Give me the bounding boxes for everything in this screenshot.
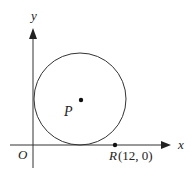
origin-label: O xyxy=(18,147,28,162)
point-r-name: R xyxy=(108,148,117,163)
point-r-coords: (12, 0) xyxy=(118,148,153,163)
coordinate-diagram: x y O P R(12, 0) xyxy=(0,0,192,176)
point-r-label: R(12, 0) xyxy=(108,148,153,163)
y-axis-label: y xyxy=(29,8,37,23)
point-r-dot xyxy=(113,143,117,147)
y-axis-arrow-icon xyxy=(29,28,37,39)
x-axis-label: x xyxy=(177,137,184,152)
x-axis-arrow-icon xyxy=(161,141,171,149)
point-p-dot xyxy=(79,98,83,102)
y-axis xyxy=(29,28,37,168)
point-p-label: P xyxy=(63,104,73,119)
